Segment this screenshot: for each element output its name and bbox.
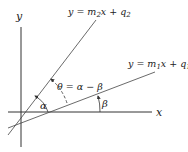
diagram-svg: y x y = m2x + q2 y = m1x + q1 α β θ = α … (0, 0, 188, 152)
alpha-label: α (40, 100, 47, 111)
beta-arc (98, 96, 100, 112)
beta-label: β (101, 98, 108, 109)
line-2-equation: y = m2x + q2 (67, 6, 131, 19)
line-1-equation: y = m1x + q1 (127, 58, 188, 71)
y-axis-label: y (15, 10, 23, 23)
angle-between-lines-diagram: y x y = m2x + q2 y = m1x + q1 α β θ = α … (0, 0, 188, 152)
theta-label: θ = α − β (57, 81, 103, 92)
x-axis-label: x (156, 106, 163, 119)
